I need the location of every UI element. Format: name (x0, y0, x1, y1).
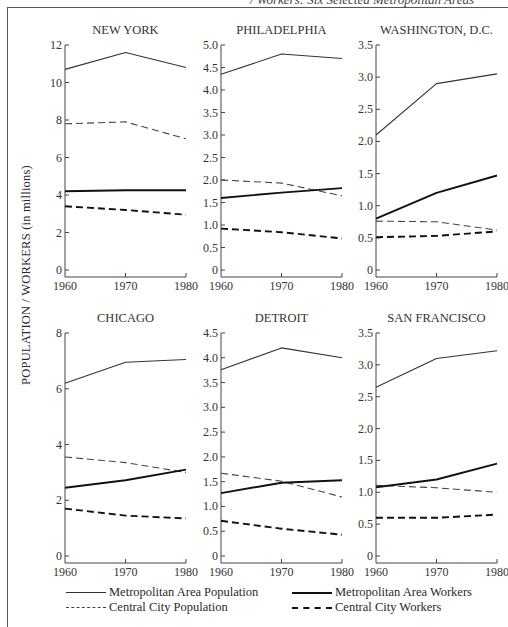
y-tick-label: 2 (56, 493, 62, 507)
y-tick-label: 4.0 (203, 351, 218, 365)
legend-label: Metropolitan Area Workers (335, 585, 472, 600)
y-tick-label: 0 (56, 549, 62, 563)
y-tick-label: 3.0 (358, 70, 373, 84)
legend-item-city-population: Central City Population (66, 600, 228, 615)
city-workers-line (221, 229, 342, 239)
x-tick-label: 1980 (174, 565, 198, 579)
y-tick-label: 5.0 (203, 38, 218, 52)
city-population-line (65, 122, 186, 139)
y-tick-label: 8 (56, 113, 62, 127)
dashed-thick-line-icon (292, 607, 332, 609)
y-tick-label: 0.5 (358, 517, 373, 531)
x-tick-label: 1970 (114, 565, 138, 579)
city-population-line (376, 485, 497, 492)
x-tick-label: 1970 (114, 279, 138, 293)
y-tick-label: 3.0 (203, 400, 218, 414)
x-tick-label: 1970 (425, 279, 449, 293)
x-tick-label: 1980 (174, 279, 198, 293)
city-workers-line (65, 509, 186, 519)
y-tick-label: 2.0 (203, 450, 218, 464)
chart-panel-new-york: NEW YORK024681012196019701980 (50, 23, 198, 293)
y-tick-label: 4 (56, 188, 62, 202)
city-population-line (376, 221, 497, 230)
y-tick-label: 2.0 (358, 422, 373, 436)
chart-title: WASHINGTON, D.C. (380, 23, 493, 37)
y-tick-label: 1.5 (358, 453, 373, 467)
y-tick-label: 0 (56, 263, 62, 277)
y-tick-label: 3.5 (203, 376, 218, 390)
metro-workers-line (376, 464, 497, 488)
chart-title: NEW YORK (92, 23, 158, 37)
y-tick-label: 1.0 (358, 199, 373, 213)
chart-title: DETROIT (255, 311, 309, 325)
metro-population-line (65, 360, 186, 384)
y-tick-label: 1.5 (358, 167, 373, 181)
y-tick-label: 2.5 (358, 102, 373, 116)
legend: Metropolitan Area Population Central Cit… (0, 585, 508, 625)
y-tick-label: 3.5 (358, 38, 373, 52)
y-tick-label: 2.5 (203, 151, 218, 165)
y-tick-label: 3.0 (358, 358, 373, 372)
y-tick-label: 0 (212, 263, 218, 277)
chart-panel-san-francisco: SAN FRANCISCO00.51.01.52.02.53.03.519601… (358, 311, 508, 579)
x-tick-label: 1980 (330, 565, 354, 579)
metro-workers-line (221, 188, 342, 198)
y-tick-label: 2.0 (203, 173, 218, 187)
x-tick-label: 1980 (330, 279, 354, 293)
y-tick-label: 1.0 (203, 218, 218, 232)
chart-title: CHICAGO (97, 311, 154, 325)
y-tick-label: 1.0 (358, 485, 373, 499)
y-tick-label: 4.0 (203, 83, 218, 97)
x-tick-label: 1960 (209, 279, 233, 293)
y-tick-label: 10 (50, 76, 62, 90)
legend-item-city-workers: Central City Workers (292, 600, 441, 615)
y-tick-label: 6 (56, 151, 62, 165)
chart-panel-philadelphia: PHILADELPHIA00.51.01.52.02.53.03.54.04.5… (203, 23, 354, 293)
metro-population-line (65, 53, 186, 70)
y-tick-label: 6 (56, 382, 62, 396)
x-tick-label: 1980 (485, 565, 508, 579)
y-tick-label: 12 (50, 38, 62, 52)
dashed-thin-line-icon (66, 607, 106, 608)
metro-population-line (376, 351, 497, 387)
y-tick-label: 2.0 (358, 134, 373, 148)
y-tick-label: 4.5 (203, 61, 218, 75)
small-multiples-charts: NEW YORK024681012196019701980PHILADELPHI… (0, 0, 508, 627)
metro-workers-line (65, 470, 186, 488)
y-tick-label: 0.5 (358, 231, 373, 245)
chart-panel-detroit: DETROIT00.51.01.52.02.53.03.54.04.519601… (203, 311, 354, 579)
city-population-line (65, 457, 186, 472)
y-tick-label: 2.5 (203, 425, 218, 439)
y-tick-label: 1.0 (203, 499, 218, 513)
metro-workers-line (65, 190, 186, 191)
metro-population-line (221, 54, 342, 74)
chart-title: SAN FRANCISCO (387, 311, 485, 325)
chart-panel-washington-d-c: WASHINGTON, D.C.00.51.01.52.02.53.03.519… (358, 23, 508, 293)
solid-thick-line-icon (292, 592, 332, 594)
y-tick-label: 0.5 (203, 524, 218, 538)
x-tick-label: 1970 (425, 565, 449, 579)
y-tick-label: 1.5 (203, 196, 218, 210)
y-tick-label: 3.5 (203, 106, 218, 120)
city-workers-line (376, 231, 497, 237)
y-tick-label: 1.5 (203, 475, 218, 489)
metro-population-line (221, 348, 342, 370)
y-tick-label: 0 (367, 263, 373, 277)
y-tick-label: 2 (56, 226, 62, 240)
y-tick-label: 3.0 (203, 128, 218, 142)
metro-workers-line (376, 176, 497, 219)
x-tick-label: 1980 (485, 279, 508, 293)
y-tick-label: 2.5 (358, 390, 373, 404)
y-tick-label: 8 (56, 326, 62, 340)
y-tick-label: 4.5 (203, 326, 218, 340)
chart-panel-chicago: CHICAGO02468196019701980 (53, 311, 198, 579)
legend-item-metro-population: Metropolitan Area Population (66, 585, 258, 600)
x-tick-label: 1960 (364, 279, 388, 293)
legend-label: Central City Workers (335, 600, 441, 615)
city-workers-line (376, 515, 497, 518)
chart-title: PHILADELPHIA (236, 23, 326, 37)
y-tick-label: 0 (212, 549, 218, 563)
x-tick-label: 1960 (209, 565, 233, 579)
x-tick-label: 1960 (53, 565, 77, 579)
y-tick-label: 4 (56, 438, 62, 452)
